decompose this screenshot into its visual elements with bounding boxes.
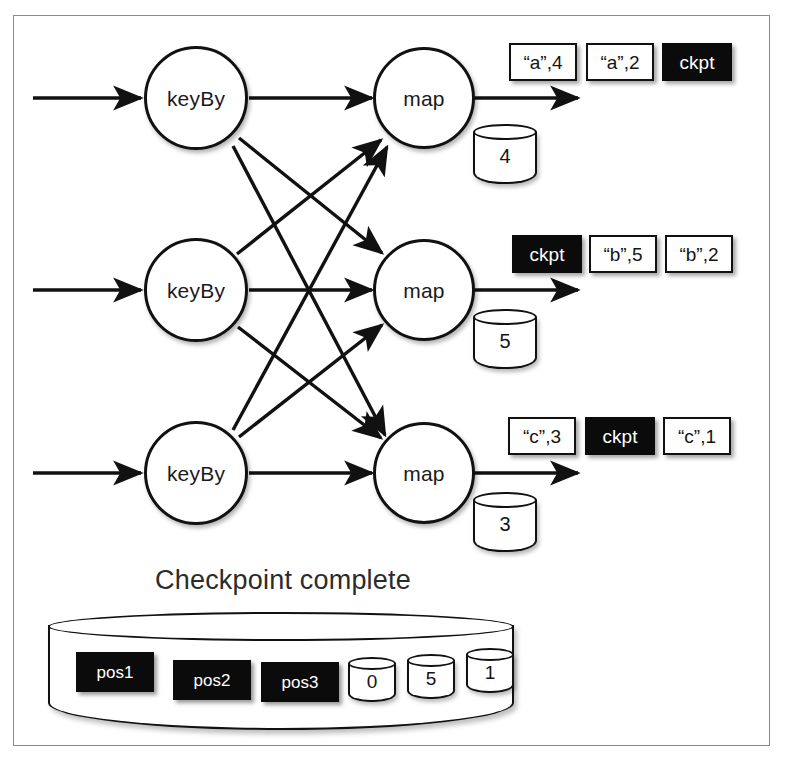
stored-state-cylinder-3: 1 bbox=[466, 648, 514, 693]
state-cylinder-row-2: 5 bbox=[473, 309, 537, 369]
checkpoint-complete-caption: Checkpoint complete bbox=[155, 565, 411, 596]
stream-event-label: “c”,1 bbox=[678, 427, 716, 446]
stream-event-row2-2: “b”,5 bbox=[589, 235, 657, 273]
checkpoint-barrier-row3: ckpt bbox=[585, 417, 655, 455]
map-node-2[interactable]: map bbox=[373, 239, 475, 341]
cylinder-top bbox=[473, 124, 537, 140]
stored-position-label: pos2 bbox=[194, 672, 231, 689]
keyby-node-3-label: keyBy bbox=[167, 463, 225, 484]
figure-canvas: keyBy keyBy keyBy map map map 4 5 3 “a”,… bbox=[0, 0, 787, 774]
stream-event-label: “a”,2 bbox=[600, 53, 639, 72]
checkpoint-barrier-row1: ckpt bbox=[662, 43, 732, 81]
keyby-node-1-label: keyBy bbox=[167, 88, 225, 109]
keyby-node-1[interactable]: keyBy bbox=[144, 46, 248, 150]
stream-event-label: “b”,2 bbox=[679, 245, 718, 264]
state-cylinder-row-1: 4 bbox=[473, 124, 537, 184]
stored-state-label: 0 bbox=[348, 672, 396, 691]
keyby-node-2[interactable]: keyBy bbox=[144, 238, 248, 342]
stored-state-label: 5 bbox=[407, 669, 455, 688]
stored-state-cylinder-2: 5 bbox=[407, 654, 455, 699]
stream-event-row2-3: “b”,2 bbox=[665, 235, 733, 273]
stream-event-row1-1: “a”,4 bbox=[509, 43, 577, 81]
state-cylinder-row-3: 3 bbox=[473, 492, 537, 552]
stream-event-row1-2: “a”,2 bbox=[586, 43, 654, 81]
cylinder-top bbox=[348, 657, 396, 670]
stream-event-label: ckpt bbox=[603, 427, 638, 446]
keyby-node-3[interactable]: keyBy bbox=[144, 421, 248, 525]
stored-state-cylinder-1: 0 bbox=[348, 657, 396, 702]
stream-event-label: “a”,4 bbox=[523, 53, 562, 72]
keyby-node-2-label: keyBy bbox=[167, 280, 225, 301]
cylinder-top bbox=[466, 648, 514, 661]
stream-event-row3-1: “c”,3 bbox=[508, 417, 576, 455]
map-node-1-label: map bbox=[403, 88, 444, 109]
map-node-1[interactable]: map bbox=[373, 47, 475, 149]
map-node-3[interactable]: map bbox=[373, 422, 475, 524]
map-node-2-label: map bbox=[403, 280, 444, 301]
checkpoint-barrier-row2: ckpt bbox=[512, 235, 582, 273]
stream-event-label: “c”,3 bbox=[523, 427, 561, 446]
cylinder-top bbox=[473, 309, 537, 325]
state-value-row-2: 5 bbox=[473, 331, 537, 351]
stored-position-2: pos2 bbox=[173, 660, 251, 700]
cylinder-top bbox=[407, 654, 455, 667]
storage-top bbox=[48, 612, 514, 641]
stream-event-label: ckpt bbox=[680, 53, 715, 72]
state-value-row-3: 3 bbox=[473, 514, 537, 534]
checkpoint-storage: pos1 pos2 pos3 0 5 1 bbox=[48, 612, 514, 730]
stored-state-label: 1 bbox=[466, 663, 514, 682]
stored-position-3: pos3 bbox=[261, 662, 339, 702]
map-node-3-label: map bbox=[403, 463, 444, 484]
stream-event-label: ckpt bbox=[530, 245, 565, 264]
stored-position-label: pos1 bbox=[97, 664, 134, 681]
stream-event-label: “b”,5 bbox=[603, 245, 642, 264]
stored-position-1: pos1 bbox=[76, 652, 154, 692]
stream-event-row3-3: “c”,1 bbox=[663, 417, 731, 455]
stored-position-label: pos3 bbox=[282, 674, 319, 691]
cylinder-top bbox=[473, 492, 537, 508]
state-value-row-1: 4 bbox=[473, 146, 537, 166]
